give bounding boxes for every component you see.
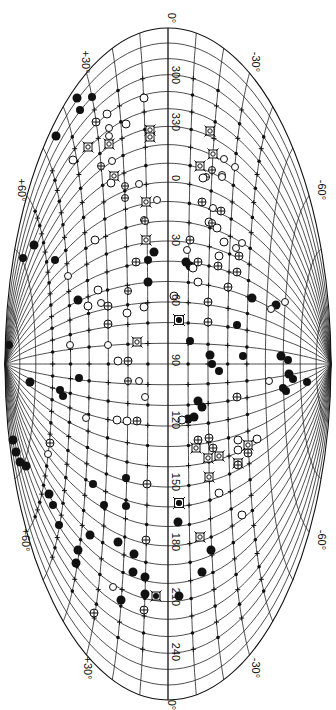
- boxed-cross-object: [204, 472, 215, 483]
- small-dot-marker: [69, 362, 73, 366]
- plus-marker: [144, 182, 149, 187]
- plus-marker: [214, 103, 219, 108]
- plus-marker: [104, 454, 109, 459]
- small-dot-marker: [144, 561, 148, 565]
- small-dot-marker: [98, 573, 102, 577]
- crossed-circle-object: [98, 163, 105, 170]
- boxed-cross-object: [141, 235, 152, 246]
- small-dot-marker: [47, 281, 51, 285]
- plus-marker: [50, 338, 55, 343]
- small-dot-marker: [191, 93, 195, 97]
- small-dot-marker: [226, 362, 230, 366]
- small-dot-marker: [188, 164, 192, 168]
- small-dot-marker: [188, 202, 192, 206]
- filled-circle-object: [176, 500, 182, 506]
- boxed-cross-object: [104, 139, 115, 150]
- latitude-label: -60°: [316, 530, 328, 550]
- small-dot-marker: [191, 631, 195, 635]
- plus-marker: [50, 362, 55, 367]
- small-dot-marker: [105, 472, 109, 476]
- small-dot-marker: [254, 538, 258, 542]
- plus-marker: [247, 461, 252, 466]
- filled-circle-object: [22, 462, 31, 471]
- open-circle-object: [106, 133, 113, 140]
- small-dot-marker: [101, 541, 105, 545]
- small-dot-marker: [105, 252, 109, 256]
- small-dot-marker: [206, 342, 210, 346]
- small-dot-marker: [211, 571, 215, 575]
- small-dot-marker: [42, 241, 46, 245]
- open-circle-object: [239, 240, 246, 247]
- plus-marker: [87, 362, 92, 367]
- plus-marker: [247, 262, 252, 267]
- small-dot-marker: [216, 636, 220, 640]
- open-circle-object: [69, 156, 77, 164]
- open-circle-object: [91, 236, 99, 244]
- plus-marker: [189, 614, 194, 619]
- small-dot-marker: [146, 362, 150, 366]
- small-dot-marker: [146, 444, 150, 448]
- plus-marker: [207, 244, 212, 249]
- small-dot-marker: [246, 413, 250, 417]
- plus-marker: [123, 516, 128, 521]
- filled-circle-object: [88, 93, 96, 101]
- open-circle-object: [98, 300, 105, 307]
- small-dot-marker: [86, 446, 90, 450]
- plus-marker: [84, 461, 89, 466]
- small-dot-marker: [248, 478, 252, 482]
- plus-marker: [125, 322, 130, 327]
- filled-circle-object: [74, 546, 83, 555]
- small-dot-marker: [45, 260, 49, 264]
- filled-circle-object: [198, 568, 207, 577]
- small-dot-marker: [79, 186, 83, 190]
- filled-circle-object: [144, 256, 152, 264]
- small-dot-marker: [189, 128, 193, 132]
- small-dot-marker: [207, 264, 211, 268]
- filled-circle-object: [248, 294, 257, 303]
- open-circle-object: [67, 342, 74, 349]
- boxed-cross-object: [83, 142, 94, 153]
- plus-marker: [50, 385, 55, 390]
- plus-marker: [66, 434, 71, 439]
- filled-circle-object: [206, 351, 215, 360]
- open-circle-object: [253, 435, 261, 443]
- filled-circle-object: [72, 559, 81, 568]
- small-dot-marker: [107, 362, 111, 366]
- filled-circle-object: [176, 317, 182, 323]
- plus-marker: [117, 620, 122, 625]
- equator-longitude-labels: 3003300306090120150180210240: [170, 66, 182, 661]
- crossed-circle-object: [186, 236, 194, 244]
- small-dot-marker: [187, 281, 191, 285]
- small-dot-marker: [227, 436, 231, 440]
- boxed-cross-object: [205, 126, 216, 137]
- small-dot-marker: [251, 216, 255, 220]
- crossed-circle-object: [133, 417, 141, 425]
- small-dot-marker: [145, 523, 149, 527]
- plus-marker: [145, 463, 150, 468]
- plus-marker: [228, 489, 233, 494]
- plus-marker: [245, 328, 250, 333]
- plus-marker: [188, 578, 193, 583]
- latitude-label: 0°: [166, 13, 178, 24]
- small-dot-marker: [61, 501, 65, 505]
- plus-marker: [211, 587, 216, 592]
- plus-marker: [39, 492, 44, 497]
- small-dot-marker: [216, 89, 220, 93]
- plus-marker: [245, 429, 250, 434]
- plus-marker: [43, 250, 48, 255]
- open-circle-object: [282, 299, 289, 306]
- plus-marker: [206, 283, 211, 288]
- latitude-label: +60°: [16, 178, 28, 201]
- plus-marker: [227, 454, 232, 459]
- crossed-circle-object: [124, 357, 132, 365]
- open-circle-object: [234, 436, 242, 444]
- crossed-circle-object: [209, 167, 216, 174]
- plus-marker: [86, 429, 91, 434]
- plus-marker: [121, 171, 126, 176]
- galactic-sky-map: 3003300306090120150180210240 0°+30°-30°+…: [0, 0, 336, 710]
- small-dot-marker: [209, 189, 213, 193]
- filled-circle-object: [150, 248, 159, 257]
- small-dot-marker: [68, 392, 72, 396]
- crossed-circle-object: [204, 298, 212, 306]
- small-dot-marker: [245, 345, 249, 349]
